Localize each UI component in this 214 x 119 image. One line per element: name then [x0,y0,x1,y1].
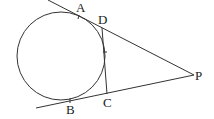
label-p: P [195,68,202,83]
circle [17,12,105,100]
label-d: D [98,12,107,27]
tangent-line-pa [48,0,194,75]
label-b: B [66,102,75,117]
label-c: C [103,95,112,110]
tangent-line-pb [36,75,194,108]
geometry-diagram: A D P B C [0,0,214,119]
label-a: A [76,0,86,15]
segment-dc [102,28,107,94]
